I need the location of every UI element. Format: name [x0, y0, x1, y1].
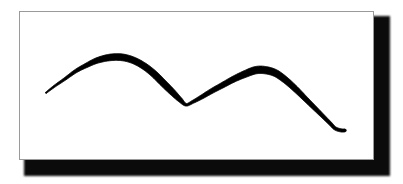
bimodal-curve-chart: [20, 12, 373, 159]
curve-end-cap: [344, 129, 347, 132]
screenshot-root: [0, 0, 403, 184]
curve-stroke-group: [45, 54, 346, 132]
figure-frame: [19, 11, 374, 160]
curve-path: [45, 54, 345, 132]
curve-start-cap: [45, 92, 46, 93]
